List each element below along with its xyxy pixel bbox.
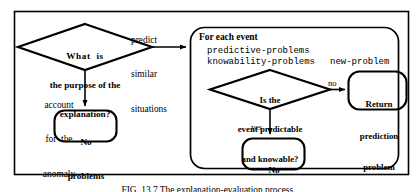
left-no-problems-label: No problems bbox=[54, 115, 118, 192]
return-line2: prediction bbox=[348, 131, 410, 142]
edge-no-label: no bbox=[328, 79, 337, 88]
figure-caption: FIG. 13.7 The explanation-evaluation pro… bbox=[0, 185, 417, 192]
return-line3: problem bbox=[348, 162, 410, 173]
account-line1: account bbox=[26, 100, 92, 111]
variable-knowability-problems: knowability-problems bbox=[207, 58, 315, 68]
figure-container: What is the purpose of the explanation? … bbox=[0, 0, 417, 192]
predict-line3: situations bbox=[131, 104, 201, 115]
main-decision-line1: What is bbox=[22, 52, 148, 62]
edge-yes-label: yes bbox=[251, 123, 262, 132]
predict-line1: predict bbox=[131, 35, 201, 46]
left-no-problems-line2: problems bbox=[54, 171, 118, 182]
inner-decision-line1: Is the bbox=[210, 96, 330, 106]
edge-predict-similar-label: predict similar situations bbox=[131, 12, 201, 138]
inner-decision-line2: event predictable bbox=[210, 125, 330, 135]
for-each-event-title: For each event bbox=[199, 33, 258, 43]
predict-line2: similar bbox=[131, 69, 201, 80]
return-prediction-problem-label: Return prediction problem bbox=[348, 78, 410, 192]
left-no-problems-line1: No bbox=[54, 137, 118, 148]
inner-no-problems-line1: No bbox=[242, 165, 306, 176]
variable-predictive-problems: predictive-problems bbox=[207, 47, 310, 57]
variable-new-problem: new-problem bbox=[330, 58, 389, 68]
return-line1: Return bbox=[348, 99, 410, 110]
